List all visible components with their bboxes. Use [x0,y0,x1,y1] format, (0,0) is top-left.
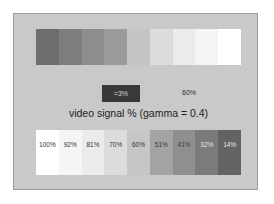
test-pattern-figure: =3% 60% video signal % (gamma = 0.4) 100… [0,0,274,204]
bottom-ramp-step-label: 51% [150,142,173,149]
bottom-ramp-step-label: 32% [195,142,218,149]
bottom-ramp-step: 100% [36,130,59,175]
bottom-ramp-step-label: 41% [173,142,196,149]
bottom-ramp-step-label: 60% [127,142,150,149]
bottom-ramp-step-label: 92% [59,142,82,149]
low-level-callout-box: =3% [102,85,140,102]
low-level-callout-label: =3% [114,90,128,97]
bottom-ramp-step: 70% [104,130,127,175]
top-ramp-swatch [59,29,82,65]
top-ramp-swatch [36,29,59,65]
top-ramp-swatch [104,29,127,65]
top-grayscale-ramp [36,29,241,65]
chart-caption: video signal % (gamma = 0.4) [36,108,241,119]
callout-row: =3% 60% [36,84,241,103]
bottom-ramp-step-label: 14% [218,142,241,149]
chart-panel: =3% 60% video signal % (gamma = 0.4) 100… [13,13,258,190]
top-ramp-swatch [173,29,196,65]
bottom-ramp-step: 14% [218,130,241,175]
bottom-ramp-step: 81% [82,130,105,175]
mid-level-callout-label: 60% [172,89,206,96]
top-ramp-swatch [127,29,150,65]
bottom-ramp-step: 51% [150,130,173,175]
bottom-ramp-step-label: 81% [82,142,105,149]
bottom-ramp-step: 92% [59,130,82,175]
bottom-ramp-step: 32% [195,130,218,175]
bottom-ramp-step: 60% [127,130,150,175]
top-ramp-swatch [82,29,105,65]
bottom-ramp-step-label: 100% [36,142,59,149]
top-ramp-swatch [218,29,241,65]
bottom-ramp-step-label: 70% [104,142,127,149]
top-ramp-swatch [195,29,218,65]
top-ramp-swatch [150,29,173,65]
bottom-grayscale-ramp: 100%92%81%70%60%51%41%32%14% [36,130,241,175]
bottom-ramp-step: 41% [173,130,196,175]
